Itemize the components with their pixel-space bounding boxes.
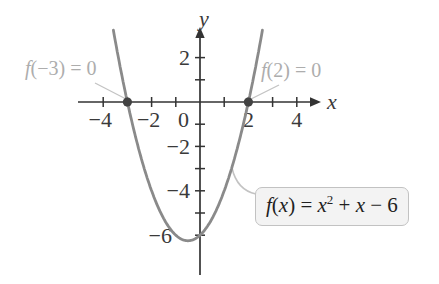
zero-point [244, 97, 253, 106]
y-axis-label: y [197, 6, 209, 31]
y-tick-label: −2 [167, 134, 190, 159]
x-tick-label: −2 [137, 107, 160, 132]
x-axis-label: x [326, 89, 337, 114]
left-zero-annotation: f(−3) = 0 [25, 58, 96, 79]
left-zero-leader-line [95, 83, 126, 99]
plot-canvas: −4−2242−2−4−60xy [0, 0, 439, 284]
y-tick-label: −4 [167, 178, 190, 203]
equation-callout-box: f(x) = x2 + x − 6 [255, 187, 409, 226]
text-segment: x [318, 193, 327, 217]
y-tick-label: 2 [179, 45, 190, 70]
text-segment: + [333, 193, 355, 217]
text-segment: x [356, 193, 365, 217]
function-graph-figure: −4−2242−2−4−60xy f(−3) = 0 f(2) = 0 f(x)… [0, 0, 439, 284]
text-segment: ) = [288, 193, 317, 217]
text-segment: − 6 [365, 193, 398, 217]
right-zero-leader-line [251, 85, 279, 99]
text-segment: (2) = 0 [267, 59, 322, 81]
x-tick-label: 4 [291, 107, 302, 132]
text-segment: ( [272, 193, 279, 217]
x-tick-label: −4 [88, 107, 111, 132]
origin-label: 0 [178, 107, 189, 132]
right-zero-annotation: f(2) = 0 [261, 60, 321, 81]
x-axis-arrow [310, 97, 321, 106]
equation-leader-line [232, 168, 256, 194]
zero-point [123, 97, 132, 106]
text-segment: x [279, 193, 288, 217]
text-segment: (−3) = 0 [31, 57, 97, 79]
